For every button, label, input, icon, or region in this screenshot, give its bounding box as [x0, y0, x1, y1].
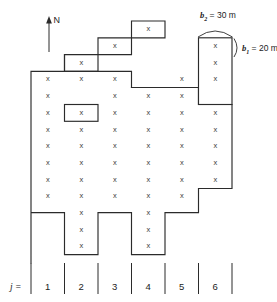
cell-marker: x	[46, 125, 50, 134]
cell-marker: x	[146, 241, 150, 250]
column-number-1: 1	[45, 281, 50, 292]
b1-height-brace	[234, 39, 237, 58]
cell-marker: x	[79, 241, 83, 250]
column-number-3: 3	[112, 281, 117, 292]
cell-marker: x	[79, 58, 83, 67]
grid-plan-diagram: N b2 = 30 m b1 = 20 m	[0, 0, 277, 302]
cell-marker: x	[113, 41, 117, 50]
north-arrow: N	[46, 15, 60, 53]
cell-marker: x	[113, 91, 117, 100]
cell-marker: x	[213, 141, 217, 150]
cell-marker: x	[146, 191, 150, 200]
cell-marker: x	[180, 108, 184, 117]
cell-marker: x	[113, 191, 117, 200]
column-number-5: 5	[179, 281, 184, 292]
cell-marker: x	[79, 141, 83, 150]
b1-dimension-label: b1 = 20 m	[242, 43, 277, 55]
cell-marker: x	[180, 91, 184, 100]
cell-marker: x	[113, 158, 117, 167]
cell-marker: x	[213, 108, 217, 117]
b2-width-brace	[198, 31, 233, 37]
cell-marker: x	[113, 175, 117, 184]
cell-marker: x	[146, 225, 150, 234]
cell-marker: x	[180, 74, 184, 83]
cell-marker: x	[79, 74, 83, 83]
cell-marker: x	[46, 158, 50, 167]
column-number-ticks	[31, 263, 232, 294]
cell-marker: x	[79, 175, 83, 184]
cell-marker: x	[213, 58, 217, 67]
cell-marker: x	[79, 225, 83, 234]
north-arrow-head	[46, 16, 52, 24]
column-number-4: 4	[146, 281, 151, 292]
cell-marker: x	[213, 158, 217, 167]
cell-marker: x	[146, 125, 150, 134]
cell-marker: x	[113, 108, 117, 117]
cell-marker: x	[46, 191, 50, 200]
cell-marker: x	[180, 191, 184, 200]
north-arrow-label: N	[54, 15, 61, 25]
cell-marker: x	[146, 108, 150, 117]
cell-marker: x	[113, 125, 117, 134]
cell-marker: x	[46, 141, 50, 150]
cell-marker: x	[79, 208, 83, 217]
cell-marker: x	[146, 208, 150, 217]
cell-marker: x	[46, 74, 50, 83]
cell-marker: x	[213, 175, 217, 184]
cell-marker: x	[46, 91, 50, 100]
cell-marker: x	[213, 125, 217, 134]
column-number-2: 2	[79, 281, 84, 292]
cell-marker: x	[79, 158, 83, 167]
cell-marker: x	[180, 158, 184, 167]
cell-marker: x	[113, 74, 117, 83]
cell-marker: x	[180, 175, 184, 184]
cell-marker: x	[146, 141, 150, 150]
cell-marker: x	[146, 158, 150, 167]
cell-marker: x	[146, 91, 150, 100]
figure-root: N b2 = 30 m b1 = 20 m	[0, 0, 277, 302]
cell-marker: x	[79, 191, 83, 200]
cell-marker: x	[213, 41, 217, 50]
cell-marker: x	[46, 108, 50, 117]
cell-marker: x	[79, 125, 83, 134]
cell-marker: x	[113, 141, 117, 150]
column-number-6: 6	[213, 281, 218, 292]
column-index-label: j =	[8, 282, 21, 292]
cell-marker: x	[79, 108, 83, 117]
cell-marker: x	[146, 175, 150, 184]
cell-marker: x	[180, 125, 184, 134]
cell-marker: x	[46, 175, 50, 184]
b2-dimension-label: b2 = 30 m	[200, 10, 236, 22]
cell-marker: x	[146, 24, 150, 33]
cell-marker: x	[180, 141, 184, 150]
cell-marker: x	[213, 74, 217, 83]
